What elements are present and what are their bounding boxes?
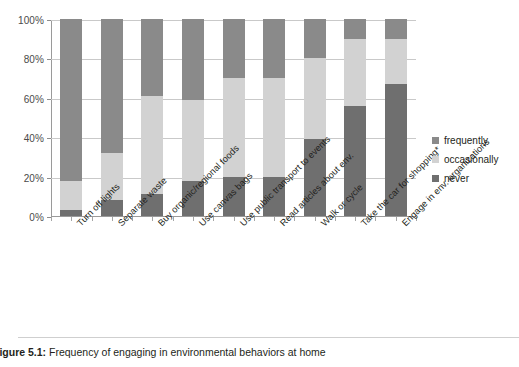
x-axis-label: Use public transport to events: [238, 221, 245, 228]
caption-label: Figure 5.1:: [0, 346, 46, 358]
x-tick-mark: [71, 217, 72, 221]
x-axis-label: Use canvas bags: [197, 221, 204, 228]
bar-segment-frequently[interactable]: [263, 19, 285, 78]
y-tick-mark: [47, 20, 51, 21]
y-tick-mark: [47, 178, 51, 179]
bar-stack[interactable]: [60, 19, 82, 216]
legend-item[interactable]: never: [432, 169, 518, 188]
y-tick-label: 20%: [24, 172, 44, 183]
bar-segment-frequently[interactable]: [344, 19, 366, 39]
bar-segment-occasionally[interactable]: [344, 39, 366, 106]
x-tick-mark: [112, 217, 113, 221]
x-tick-mark: [274, 217, 275, 221]
x-axis-label: Engage in env. organizations: [400, 221, 407, 228]
x-tick-mark: [234, 217, 235, 221]
legend-swatch-icon: [432, 156, 439, 163]
x-axis-label: Walk or cycle: [319, 221, 326, 228]
x-axis-label: Separate waste: [116, 221, 123, 228]
bar-segment-occasionally[interactable]: [263, 78, 285, 177]
x-tick-mark: [193, 217, 194, 221]
y-tick-mark: [47, 99, 51, 100]
x-tick-mark: [355, 217, 356, 221]
bar-segment-occasionally[interactable]: [385, 39, 407, 84]
x-axis-label: Read articles about env.: [278, 221, 285, 228]
x-tick-mark: [315, 217, 316, 221]
bar-segment-frequently[interactable]: [304, 19, 326, 58]
legend-swatch-icon: [432, 175, 439, 182]
bar-segment-frequently[interactable]: [101, 19, 123, 153]
x-tick-mark: [396, 217, 397, 221]
x-axis-label: Buy organic/regional foods: [156, 221, 163, 228]
x-axis-label: Turn off lights: [75, 221, 82, 228]
caption-divider: [18, 337, 519, 338]
y-tick-mark: [47, 138, 51, 139]
legend-label: never: [444, 173, 469, 184]
y-tick-label: 80%: [24, 54, 44, 65]
y-tick-label: 40%: [24, 133, 44, 144]
bar-segment-frequently[interactable]: [223, 19, 245, 78]
y-axis-line: [51, 20, 52, 217]
y-tick-label: 100%: [18, 15, 44, 26]
bar-segment-occasionally[interactable]: [182, 100, 204, 181]
figure-caption: Figure 5.1: Frequency of engaging in env…: [0, 346, 519, 358]
chart-legend: frequentlyoccasionallynever: [432, 131, 518, 188]
x-tick-mark: [152, 217, 153, 221]
bar-segment-frequently[interactable]: [385, 19, 407, 39]
caption-text: Frequency of engaging in environmental b…: [49, 346, 326, 358]
y-tick-label: 60%: [24, 93, 44, 104]
x-tick-mark: [51, 217, 52, 221]
legend-swatch-icon: [432, 137, 439, 144]
legend-item[interactable]: frequently: [432, 131, 518, 150]
bar-segment-frequently[interactable]: [60, 19, 82, 181]
legend-label: occasionally: [444, 154, 498, 165]
legend-label: frequently: [444, 135, 488, 146]
x-axis-label: Take the car for shopping*: [359, 221, 366, 228]
bar-segment-frequently[interactable]: [141, 19, 163, 96]
bar-segment-occasionally[interactable]: [304, 58, 326, 139]
bar-segment-frequently[interactable]: [182, 19, 204, 100]
y-tick-mark: [47, 59, 51, 60]
y-tick-label: 0%: [29, 212, 44, 223]
bar-segment-occasionally[interactable]: [60, 181, 82, 211]
legend-item[interactable]: occasionally: [432, 150, 518, 169]
figure-container: 0%20%40%60%80%100% Turn off lightsSepara…: [0, 0, 519, 330]
